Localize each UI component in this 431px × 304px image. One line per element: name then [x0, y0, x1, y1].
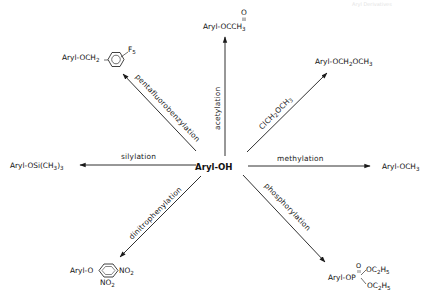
p-oet-bond-2 — [361, 278, 366, 284]
product-trimethylsilyl-ether: Aryl-OSi(CH3)3 — [10, 161, 64, 171]
reaction-phosphorylation: phosphorylation Aryl-OP O OC2H5 OC2H5 — [243, 175, 391, 291]
ethoxy-group-2: OC2H5 — [367, 281, 391, 291]
carbonyl-oxygen: O — [241, 8, 247, 17]
arrow-mom — [247, 73, 327, 152]
arrow-dinitrophenylation — [120, 176, 201, 257]
phosphate-core: Aryl-OP — [328, 273, 356, 282]
reaction-silylation: silylation Aryl-OSi(CH3)3 — [10, 152, 196, 171]
product-methyl-ether: Aryl-OCH3 — [382, 162, 420, 172]
center-compound-aryl-oh: Aryl-OH — [195, 162, 233, 172]
label-dinitrophenylation: dinitrophenylation — [127, 185, 184, 242]
nitro-group-para: NO2 — [119, 266, 134, 276]
derivatization-diagram: Aryl Derivatives Aryl-OH acetylation O A… — [0, 0, 431, 304]
aromatic-circle — [112, 55, 121, 64]
product-pentafluorobenzyl-ether: Aryl-OCH2 F5 — [62, 45, 136, 67]
fluorine-bond — [121, 52, 128, 57]
dnp-aryl-o: Aryl-O — [70, 266, 93, 275]
label-silylation: silylation — [121, 152, 156, 161]
reaction-dinitrophenylation: dinitrophenylation Aryl-O NO2 NO2 — [70, 176, 201, 288]
product-acetate-text: Aryl-OCCH3 — [203, 22, 246, 32]
label-phosphorylation: phosphorylation — [263, 181, 313, 233]
label-clch2och3: ClCH2OCH3 — [257, 94, 295, 132]
product-diethyl-phosphate: Aryl-OP O OC2H5 OC2H5 — [328, 262, 391, 291]
aromatic-inner-ring — [102, 267, 115, 275]
nitro-group-ortho: NO2 — [100, 278, 115, 288]
arrow-phosphorylation — [243, 175, 325, 262]
label-pentafluorobenzylation: pentafluorobenzylation — [134, 72, 203, 144]
product-dinitrophenyl-ether: Aryl-O NO2 NO2 — [70, 264, 134, 288]
arrow-pentafluorobenzylation — [123, 74, 196, 151]
product-aryl-acetate: O Aryl-OCCH3 — [203, 8, 247, 32]
faint-header-text: Aryl Derivatives — [352, 1, 392, 8]
fluorine-label: F5 — [128, 45, 136, 55]
pentafluorophenyl-ring-icon — [108, 53, 124, 67]
reaction-pentafluorobenzylation: pentafluorobenzylation Aryl-OCH2 F5 — [62, 45, 202, 151]
pfb-aryl-och2: Aryl-OCH2 — [62, 53, 100, 63]
product-mom-ether: Aryl-OCH2OCH3 — [315, 57, 373, 67]
label-acetylation: acetylation — [213, 87, 222, 130]
label-methylation: methylation — [277, 154, 324, 163]
reaction-acetylation: acetylation O Aryl-OCCH3 — [203, 8, 247, 156]
reaction-mom-protection: ClCH2OCH3 Aryl-OCH2OCH3 — [247, 57, 373, 152]
phosphate-oxygen: O — [356, 262, 361, 270]
reaction-methylation: methylation Aryl-OCH3 — [248, 154, 420, 172]
ethoxy-group-1: OC2H5 — [366, 265, 390, 275]
